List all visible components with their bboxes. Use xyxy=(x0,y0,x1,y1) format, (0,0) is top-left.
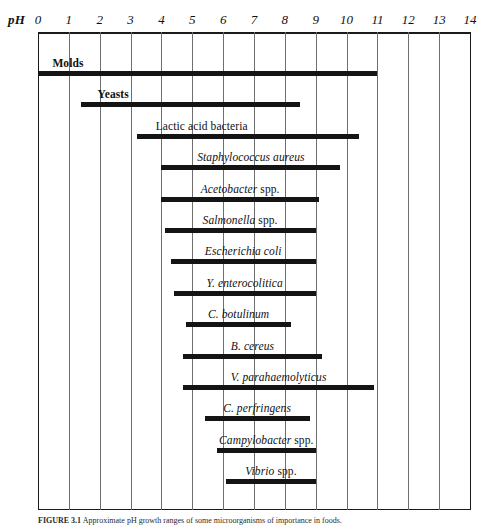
tick-label-ph-0: 0 xyxy=(35,12,42,28)
range-bar-label: Vibrio spp. xyxy=(245,465,296,477)
range-bar-label: V. parahaemolyticus xyxy=(231,371,327,383)
gridline-ph-14 xyxy=(470,32,471,510)
range-bar xyxy=(217,448,316,453)
tick-label-ph-7: 7 xyxy=(251,12,258,28)
chart-row: Yeasts xyxy=(38,79,470,109)
range-bar xyxy=(38,71,377,76)
range-bar-label: B. cereus xyxy=(231,340,274,352)
chart-row: Molds xyxy=(38,48,470,78)
chart-row: Acetobacter spp. xyxy=(38,174,470,204)
range-bar-label: C. botulinum xyxy=(208,308,269,320)
tick-label-ph-2: 2 xyxy=(96,12,103,28)
range-bar xyxy=(137,134,359,139)
tick-label-ph-6: 6 xyxy=(220,12,227,28)
plot-area: 01234567891011121314 MoldsYeastsLactic a… xyxy=(38,32,470,510)
range-bar-label: Y. enterocolitica xyxy=(207,277,283,289)
chart-row: B. cereus xyxy=(38,331,470,361)
chart-row: Campylobacter spp. xyxy=(38,425,470,455)
tick-label-ph-10: 10 xyxy=(340,12,353,28)
chart-row: Staphylococcus aureus xyxy=(38,142,470,172)
range-bar-label: Escherichia coli xyxy=(205,245,282,257)
range-bar-label: Lactic acid bacteria xyxy=(156,120,248,132)
tick-label-ph-12: 12 xyxy=(402,12,415,28)
range-bar-label: Acetobacter spp. xyxy=(201,183,280,195)
axis-name-ph: pH xyxy=(8,12,25,28)
range-bar-label: Staphylococcus aureus xyxy=(197,151,304,163)
range-bar xyxy=(161,165,340,170)
tick-label-ph-3: 3 xyxy=(127,12,134,28)
range-bar-label: Molds xyxy=(52,57,83,69)
chart-row: C. perfringens xyxy=(38,393,470,423)
range-bar xyxy=(205,416,310,421)
range-bar xyxy=(81,102,300,107)
range-bar-label: Salmonella spp. xyxy=(203,214,278,226)
tick-label-ph-1: 1 xyxy=(66,12,73,28)
range-bar-label: Yeasts xyxy=(98,88,129,100)
chart-row: Escherichia coli xyxy=(38,236,470,266)
tick-label-ph-8: 8 xyxy=(282,12,289,28)
tick-label-ph-4: 4 xyxy=(158,12,165,28)
range-bar-label: Campylobacter spp. xyxy=(219,434,313,446)
chart-row: Lactic acid bacteria xyxy=(38,111,470,141)
figure-container: pH 01234567891011121314 MoldsYeastsLacti… xyxy=(0,0,487,530)
tick-label-ph-14: 14 xyxy=(464,12,477,28)
range-bar xyxy=(186,322,291,327)
range-bar xyxy=(226,479,315,484)
chart-row: Y. enterocolitica xyxy=(38,268,470,298)
chart-row: V. parahaemolyticus xyxy=(38,362,470,392)
caption-number: FIGURE 3.1 xyxy=(38,516,81,525)
range-bar xyxy=(161,197,318,202)
tick-label-ph-11: 11 xyxy=(371,12,383,28)
chart-row: Salmonella spp. xyxy=(38,205,470,235)
tick-label-ph-9: 9 xyxy=(312,12,319,28)
tick-label-ph-13: 13 xyxy=(433,12,446,28)
range-bar-label: C. perfringens xyxy=(223,402,291,414)
chart-row: Vibrio spp. xyxy=(38,456,470,486)
figure-caption: FIGURE 3.1 Approximate pH growth ranges … xyxy=(38,516,468,528)
range-bar xyxy=(183,385,374,390)
range-bar xyxy=(174,291,316,296)
range-bar xyxy=(165,228,316,233)
caption-text: Approximate pH growth ranges of some mic… xyxy=(81,516,342,525)
chart-row: C. botulinum xyxy=(38,299,470,329)
tick-label-ph-5: 5 xyxy=(189,12,196,28)
range-bar xyxy=(171,259,316,264)
range-bar xyxy=(183,354,322,359)
